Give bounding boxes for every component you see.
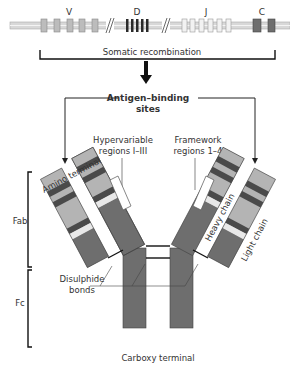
fab-label: Fab (13, 216, 28, 226)
j-label: J (204, 7, 208, 17)
hypervariable-label-1: Hypervariable (93, 135, 153, 145)
disulphide-label-2: bonds (69, 285, 95, 295)
down-arrow-icon (140, 61, 152, 84)
antigen-binding-label-2: sites (136, 104, 160, 114)
dna-strand (10, 18, 290, 33)
carboxy-terminal-label: Carboxy terminal (121, 353, 194, 363)
hypervariable-label-2: regions I–III (99, 146, 147, 156)
antibody-diagram: V D J C Somatic recombination Antigen–bi… (0, 0, 290, 370)
fab-bracket (28, 172, 32, 267)
fc-region (123, 248, 193, 328)
framework-label-2: regions 1–4 (173, 146, 222, 156)
framework-label-1: Framework (174, 135, 221, 145)
arrow-right-icon (252, 158, 258, 164)
arrow-left-icon (62, 158, 68, 164)
antigen-binding-label-1: Antigen–binding (107, 93, 190, 103)
fc-label: Fc (15, 298, 25, 308)
break-mark-2 (162, 18, 170, 33)
disulphide-label-1: Disulphide (60, 274, 105, 284)
c-label: C (259, 7, 265, 17)
somatic-recombination-label: Somatic recombination (103, 47, 201, 57)
fc-bracket (28, 270, 32, 347)
break-mark-1 (106, 18, 114, 33)
d-label: D (134, 7, 141, 17)
v-label: V (66, 7, 73, 17)
